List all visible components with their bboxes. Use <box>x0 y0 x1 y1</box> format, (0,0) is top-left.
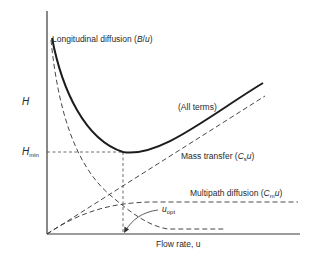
multipath-label-c: C <box>264 188 270 198</box>
longitudinal-diffusion-curve <box>51 40 226 229</box>
x-axis-label: Flow rate, u <box>156 240 200 249</box>
multipath-label-text: Multipath diffusion ( <box>190 188 264 198</box>
mass-transfer-curve <box>47 96 265 234</box>
van-deemter-plot <box>0 0 313 259</box>
mass-label-text: Mass transfer ( <box>181 151 238 161</box>
longitudinal-diffusion-label: Longitudinal diffusion (B/u) <box>52 35 153 44</box>
y-axis-label: H <box>22 97 29 107</box>
mass-label-c: C <box>238 151 244 161</box>
mass-label-close: ) <box>252 151 255 161</box>
all-terms-curve <box>52 38 263 153</box>
all-terms-label: (All terms) <box>178 103 217 112</box>
longitudinal-label-close: ) <box>150 34 153 44</box>
mass-transfer-label: Mass transfer (Csu) <box>181 152 254 161</box>
u-opt-sub: opt <box>167 209 175 215</box>
h-min-sub: min <box>29 152 39 158</box>
x-axis-label-text: Flow rate, u <box>156 239 200 249</box>
multipath-label-sub: m <box>270 193 275 199</box>
u-opt-label: uopt <box>162 205 175 214</box>
longitudinal-label-text: Longitudinal diffusion ( <box>52 34 137 44</box>
u-opt-arrowhead-icon <box>124 227 129 234</box>
mass-label-sub: s <box>244 156 247 162</box>
h-min-label: Hmin <box>22 147 39 157</box>
multipath-diffusion-label: Multipath diffusion (Cmu) <box>190 189 282 198</box>
u-opt-arrow-line <box>126 210 158 230</box>
multipath-label-close: ) <box>279 188 282 198</box>
